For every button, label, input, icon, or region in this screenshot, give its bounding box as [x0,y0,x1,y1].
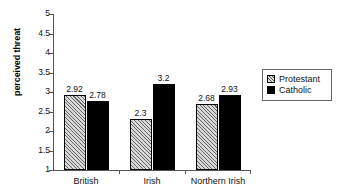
chart-legend: Protestant Catholic [262,69,332,101]
x-axis-tick-mark [185,170,186,174]
y-axis-title: perceived threat [12,17,22,107]
legend-swatch-protestant-icon [267,75,275,83]
bar-value-label: 2.3 [135,108,147,118]
bar-irish-protestant: 2.3 [130,119,152,170]
bar-chart: perceived threat 11.522.533.544.55 2.922… [0,0,338,194]
x-axis-tick-mark [250,170,251,174]
legend-label-protestant: Protestant [279,74,320,84]
x-axis-group-label: Northern Irish [191,176,246,186]
y-axis-tick-label: 3.5 [38,67,50,77]
y-axis-tick-label: 2.5 [38,106,50,116]
bar-british-protestant: 2.92 [64,95,86,170]
x-axis-group-label: Irish [143,176,160,186]
bar-northern-irish-protestant: 2.68 [196,104,218,170]
y-axis-tick-label: 4 [45,47,50,57]
y-axis-line [53,14,54,170]
bar-value-label: 2.78 [89,90,106,100]
y-axis-tick-label: 5 [45,8,50,18]
legend-item-catholic: Catholic [267,85,327,95]
plot-area: 11.522.533.544.55 2.922.782.33.22.682.93… [53,14,251,170]
bar-british-catholic: 2.78 [87,101,109,170]
y-axis-tick-label: 1 [45,164,50,174]
bar-value-label: 2.93 [221,84,238,94]
bar-value-label: 3.2 [158,73,170,83]
legend-swatch-catholic-icon [267,86,275,94]
legend-item-protestant: Protestant [267,74,327,84]
x-axis-group-label: British [73,176,98,186]
bar-irish-catholic: 3.2 [153,84,175,170]
y-axis-tick-label: 4.5 [38,28,50,38]
bar-northern-irish-catholic: 2.93 [219,95,241,170]
bar-value-label: 2.92 [66,84,83,94]
legend-label-catholic: Catholic [279,85,312,95]
y-axis-tick-label: 1.5 [38,145,50,155]
y-axis-tick-label: 2 [45,125,50,135]
x-axis-line [53,170,251,171]
bar-value-label: 2.68 [198,93,215,103]
x-axis-tick-mark [119,170,120,174]
y-axis-tick-label: 3 [45,86,50,96]
